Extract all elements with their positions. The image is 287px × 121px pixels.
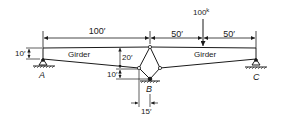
left-girder bbox=[43, 47, 150, 68]
support-b-label: B bbox=[146, 84, 152, 94]
offset-b-dimension bbox=[131, 70, 158, 107]
depth-mid-label: 20′ bbox=[122, 53, 133, 62]
support-c-pin-icon bbox=[245, 59, 267, 69]
depth-b-label: 10′ bbox=[107, 70, 118, 79]
diamond-truss bbox=[139, 47, 160, 79]
girder-right-label: Girder bbox=[194, 50, 217, 59]
truss-girder-diagram: 100′ 50′ 50′ 100k Girder Girder 10′ 20′ … bbox=[0, 0, 287, 121]
support-c-label: C bbox=[253, 72, 260, 82]
span-mid-label: 50′ bbox=[171, 29, 183, 39]
girder-left-label: Girder bbox=[68, 50, 91, 59]
span-left-label: 100′ bbox=[89, 26, 106, 36]
support-b-pin-icon bbox=[140, 77, 160, 83]
depth-a-label: 10′ bbox=[15, 49, 26, 58]
span-right-label: 50′ bbox=[223, 29, 235, 39]
load-value: 100 bbox=[193, 8, 207, 17]
load-unit: k bbox=[206, 7, 210, 13]
support-a-label: A bbox=[38, 70, 45, 80]
load-label: 100k bbox=[193, 7, 210, 17]
depth-a-dimension bbox=[26, 48, 42, 59]
offset-b-label: 15′ bbox=[141, 107, 152, 116]
